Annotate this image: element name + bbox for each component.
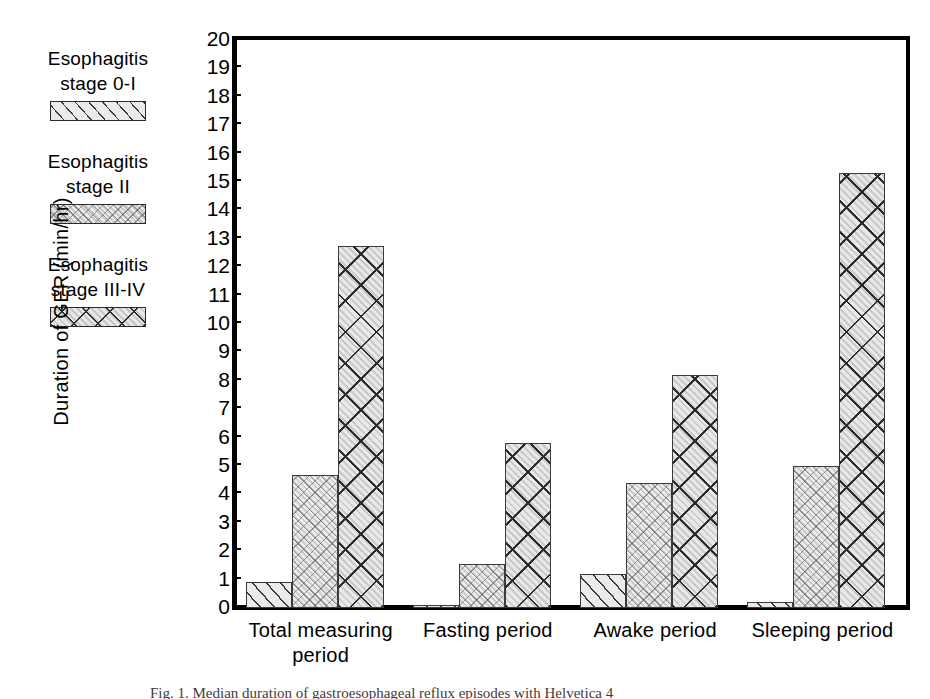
bar (747, 602, 793, 608)
y-tick-label-16: 16 (207, 141, 230, 162)
y-tick-label-6: 6 (218, 425, 230, 446)
y-tick-label-15: 15 (207, 170, 230, 191)
y-tick-mark-4 (232, 491, 241, 493)
y-tick-mark-14 (232, 207, 241, 209)
y-tick-label-11: 11 (208, 283, 230, 304)
y-tick-mark-17 (232, 122, 241, 124)
y-tick-mark-10 (232, 321, 241, 323)
x-axis-label-line1: Total measuring (223, 618, 418, 643)
y-tick-mark-11 (232, 293, 241, 295)
y-tick-label-9: 9 (218, 340, 230, 361)
y-tick-label-19: 19 (207, 56, 230, 77)
y-tick-mark-1 (232, 577, 241, 579)
y-tick-label-7: 7 (218, 397, 230, 418)
x-axis-label-line1: Fasting period (390, 618, 585, 643)
y-tick-label-17: 17 (207, 113, 230, 134)
y-tick-label-3: 3 (218, 510, 230, 531)
y-tick-mark-3 (232, 520, 241, 522)
bar (839, 173, 885, 608)
x-axis-label-2: Fasting period (390, 618, 585, 643)
y-tick-label-5: 5 (218, 454, 230, 475)
x-axis-label-3: Awake period (558, 618, 753, 643)
bar (793, 466, 839, 608)
y-tick-label-12: 12 (207, 255, 230, 276)
bar (292, 475, 338, 608)
bar (459, 564, 505, 608)
y-tick-label-14: 14 (207, 198, 230, 219)
x-axis-label-1: Total measuringperiod (223, 618, 418, 668)
y-tick-label-2: 2 (218, 539, 230, 560)
y-tick-mark-16 (232, 151, 241, 153)
bar (580, 574, 626, 608)
y-tick-label-8: 8 (218, 368, 230, 389)
y-tick-mark-19 (232, 65, 241, 67)
y-tick-label-0: 0 (218, 596, 230, 617)
y-tick-mark-9 (232, 349, 241, 351)
plot-right-border (906, 36, 910, 610)
y-tick-mark-18 (232, 94, 241, 96)
x-axis-label-line2: period (223, 643, 418, 668)
y-axis-title: Duration of GER (min/hr) (50, 167, 73, 457)
y-tick-mark-7 (232, 406, 241, 408)
bar (246, 582, 292, 608)
bar (672, 375, 718, 608)
bar-group (237, 40, 404, 608)
y-tick-mark-12 (232, 264, 241, 266)
y-tick-label-4: 4 (218, 482, 230, 503)
y-tick-label-1: 1 (218, 567, 230, 588)
y-tick-label-18: 18 (207, 84, 230, 105)
x-axis-label-line1: Awake period (558, 618, 753, 643)
bar-group (739, 40, 906, 608)
bar (626, 483, 672, 608)
plot-region: Duration of GER (min/hr) 201918171615141… (0, 0, 930, 699)
y-tick-label-13: 13 (207, 226, 230, 247)
y-tick-mark-5 (232, 463, 241, 465)
figure-caption: Fig. 1. Median duration of gastroesophag… (150, 684, 850, 699)
y-axis-tick-labels: 20191817161514131211109876543210 (196, 38, 230, 608)
bar (338, 246, 384, 608)
x-axis-label-line1: Sleeping period (725, 618, 920, 643)
bar (413, 605, 459, 608)
bars-container (237, 40, 906, 608)
y-tick-label-10: 10 (207, 312, 230, 333)
y-tick-mark-2 (232, 548, 241, 550)
figure-bar-chart: Esophagitis stage 0-I Esophagitis stage … (0, 0, 930, 699)
bar-group (404, 40, 571, 608)
bar (505, 443, 551, 608)
bar-group (572, 40, 739, 608)
y-tick-mark-6 (232, 435, 241, 437)
y-tick-mark-15 (232, 179, 241, 181)
y-tick-label-20: 20 (207, 28, 230, 49)
y-tick-mark-13 (232, 236, 241, 238)
x-axis-label-4: Sleeping period (725, 618, 920, 643)
y-tick-mark-8 (232, 378, 241, 380)
